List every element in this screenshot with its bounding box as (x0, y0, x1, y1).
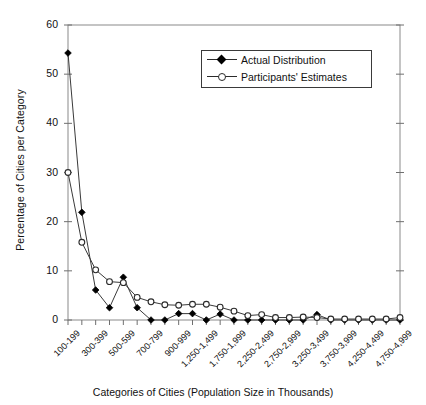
data-point-marker (342, 316, 348, 322)
y-tick-label: 40 (32, 117, 58, 128)
legend-label-actual-distribution: Actual Distribution (241, 54, 326, 66)
data-point-marker (231, 317, 238, 324)
data-point-marker (175, 310, 182, 317)
data-point-marker (217, 311, 224, 318)
data-point-marker (134, 294, 140, 300)
data-point-marker (203, 301, 209, 307)
data-point-marker (286, 315, 292, 321)
y-tick-label: 50 (32, 68, 58, 79)
chart-legend: Actual Distribution Participants' Estima… (201, 50, 372, 88)
data-point-marker (314, 315, 320, 321)
data-point-marker (328, 316, 334, 322)
data-point-marker (356, 316, 362, 322)
data-point-marker (107, 279, 113, 285)
data-point-marker (259, 312, 265, 318)
data-point-marker (231, 308, 237, 314)
data-point-marker (273, 315, 279, 321)
y-tick-label: 30 (32, 167, 58, 178)
data-point-marker (190, 301, 196, 307)
y-tick-label: 10 (32, 265, 58, 276)
data-point-marker (162, 302, 168, 308)
data-point-marker (217, 304, 223, 310)
data-point-marker (369, 316, 375, 322)
data-point-marker (79, 239, 85, 245)
y-tick-label: 20 (32, 216, 58, 227)
legend-item-participants-estimates: Participants' Estimates (202, 68, 371, 85)
filled-diamond-marker-icon (207, 54, 237, 66)
legend-item-actual-distribution: Actual Distribution (202, 51, 371, 68)
legend-label-participants-estimates: Participants' Estimates (241, 71, 347, 83)
data-point-marker (120, 280, 126, 286)
data-point-marker (300, 314, 306, 320)
data-point-marker (176, 302, 182, 308)
data-point-marker (397, 315, 403, 321)
series-participants-estimates (65, 170, 403, 322)
y-tick-label: 0 (32, 314, 58, 325)
open-circle-marker-icon (207, 71, 237, 83)
data-point-marker (79, 209, 86, 216)
data-point-marker (162, 317, 169, 324)
data-point-marker (189, 310, 196, 317)
data-point-marker (65, 170, 71, 176)
data-point-marker (245, 313, 251, 319)
chart-figure: Percentage of Cities per Category 010203… (0, 0, 426, 405)
data-point-marker (203, 317, 210, 324)
data-point-marker (93, 267, 99, 273)
data-point-marker (148, 299, 154, 305)
data-point-marker (383, 316, 389, 322)
x-axis-title: Categories of Cities (Population Size in… (0, 386, 426, 398)
y-tick-label: 60 (32, 19, 58, 30)
data-point-marker (65, 50, 72, 57)
